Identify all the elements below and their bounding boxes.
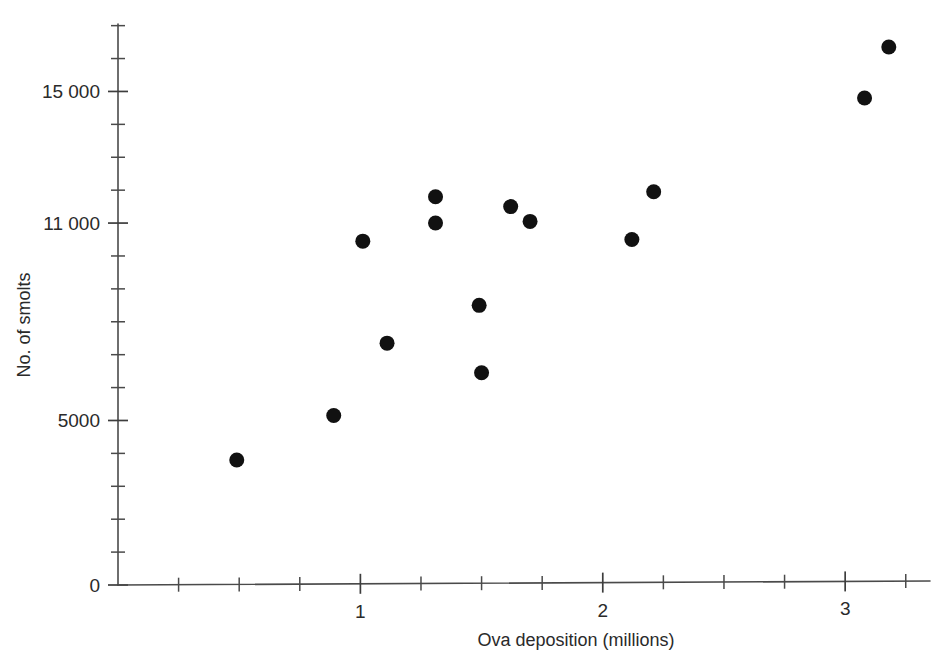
x-axis-major-ticks — [360, 571, 845, 593]
x-axis-tick-labels: 123 — [355, 598, 850, 621]
y-axis-tick-label: 0 — [89, 575, 100, 596]
scatter-plot-figure: 15 00011 00050000 123 Ova deposition (mi… — [0, 0, 942, 661]
x-axis: 123 — [118, 571, 930, 621]
data-point — [428, 189, 443, 204]
data-point — [523, 214, 538, 229]
x-axis-title: Ova deposition (millions) — [477, 630, 674, 650]
y-axis-tick-label: 11 000 — [43, 213, 100, 234]
y-axis: 15 00011 00050000 — [42, 24, 128, 596]
data-point — [474, 365, 489, 380]
data-point — [624, 232, 639, 247]
y-axis-tick-label: 15 000 — [42, 81, 100, 102]
data-point — [229, 452, 244, 467]
data-point — [326, 408, 341, 423]
data-points-layer — [229, 40, 896, 468]
y-axis-tick-label: 5000 — [58, 410, 100, 431]
plot-canvas: 15 00011 00050000 123 Ova deposition (mi… — [0, 0, 942, 661]
data-point — [380, 336, 395, 351]
y-axis-title: No. of smolts — [14, 272, 34, 377]
data-point — [355, 234, 370, 249]
data-point — [472, 298, 487, 313]
data-point — [857, 91, 872, 106]
data-point — [428, 216, 443, 231]
data-point — [646, 184, 661, 199]
x-axis-tick-label: 3 — [840, 598, 851, 619]
y-axis-tick-labels: 15 00011 00050000 — [42, 81, 100, 596]
data-point — [881, 40, 896, 55]
x-axis-tick-label: 1 — [355, 601, 366, 622]
x-axis-tick-label: 2 — [597, 600, 608, 621]
x-axis-minor-ticks — [179, 574, 906, 592]
data-point — [503, 199, 518, 214]
